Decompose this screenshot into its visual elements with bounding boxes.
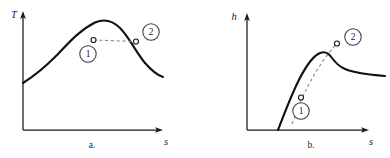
panel-b-caption: b.	[307, 140, 314, 150]
panel-a-callout-2-label: 2	[149, 27, 154, 37]
panel-a-callout-2: 2	[143, 24, 159, 40]
panel-b-callout-2: 2	[345, 29, 361, 45]
panel-a-callout-1: 1	[80, 46, 96, 62]
panel-a: T s 1 2 a.	[11, 9, 168, 151]
panel-b-callout-2-label: 2	[351, 32, 356, 42]
panel-b-callout-1-label: 1	[299, 106, 304, 116]
panel-a-y-axis-label: T	[11, 9, 18, 20]
panel-b-y-axis-label: h	[231, 11, 236, 22]
panel-b-x-axis-label: s	[369, 136, 373, 147]
thermodynamic-diagrams-svg: T s 1 2 a. h	[0, 0, 390, 158]
panel-a-state-point-2	[134, 39, 139, 44]
panel-a-caption: a.	[89, 140, 96, 150]
panel-a-callout-1-label: 1	[86, 49, 91, 59]
panel-b-callout-1: 1	[293, 103, 309, 119]
panel-b: h s 1 2 b.	[231, 11, 385, 151]
panel-a-state-point-1	[91, 38, 96, 43]
panel-b-state-point-1	[299, 95, 304, 100]
figure-root: T s 1 2 a. h	[0, 0, 390, 158]
panel-a-axes	[20, 11, 163, 133]
panel-b-state-point-2	[335, 41, 340, 46]
panel-a-x-axis-label: s	[164, 136, 168, 147]
